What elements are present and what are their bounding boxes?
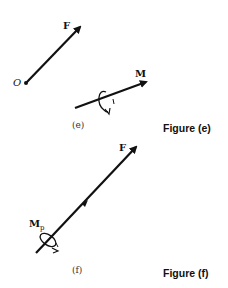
- subcaption-f: (f): [72, 265, 82, 275]
- figure-f: F Mp (f) Figure (f): [29, 142, 209, 279]
- figure-e: F O M (e) Figure (e): [13, 20, 211, 134]
- moment-label-m: M: [135, 68, 146, 79]
- origin-point-icon: [24, 81, 28, 85]
- origin-label: O: [13, 77, 21, 88]
- moment-label-mp-sub: p: [40, 224, 45, 232]
- caption-figure-e: Figure (e): [163, 122, 211, 134]
- subcaption-e: (e): [72, 120, 84, 130]
- moment-label-mp: Mp: [29, 218, 45, 232]
- moment-label-mp-main: M: [29, 218, 40, 229]
- force-label-e: F: [63, 20, 70, 31]
- diagram-canvas: F O M (e) Figure (e) F Mp (f): [0, 0, 228, 288]
- force-vector-f-arrow-icon: [24, 27, 80, 85]
- moment-vector-m-arrow-icon: [75, 82, 146, 114]
- force-vector-f-line-of-action-icon: [36, 147, 136, 253]
- caption-figure-f: Figure (f): [163, 267, 209, 279]
- force-label-f: F: [119, 142, 126, 153]
